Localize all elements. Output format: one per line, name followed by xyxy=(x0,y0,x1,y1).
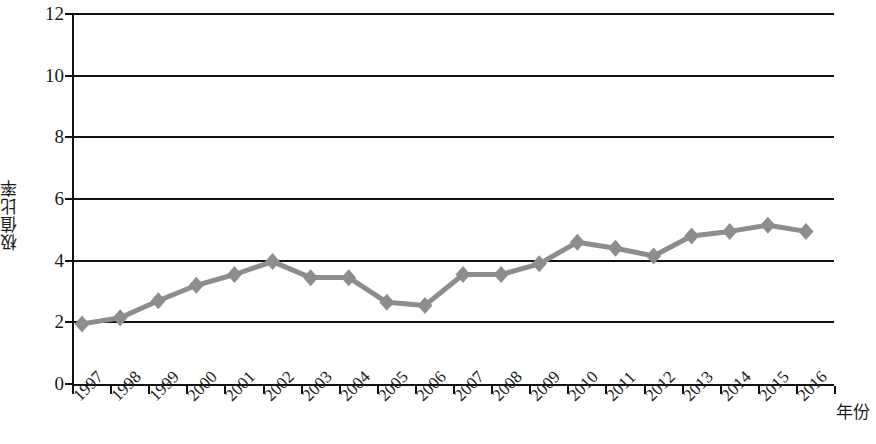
data-point-marker: 2013: 4.8 xyxy=(684,228,699,245)
y-axis-tick-label: 4 xyxy=(34,251,64,270)
data-point-marker: 2010: 4.6 xyxy=(570,234,585,251)
line-chart: 极值比率 121086420 1997: 1.951998: 2.151999:… xyxy=(0,0,876,444)
data-point-marker: 2009: 3.9 xyxy=(532,255,547,272)
y-axis-tick-label: 8 xyxy=(34,127,64,146)
y-axis-tick-label: 2 xyxy=(34,312,64,331)
data-series: 1997: 1.951998: 2.151999: 2.72000: 3.220… xyxy=(72,14,834,386)
data-point-marker: 2012: 4.15 xyxy=(646,248,661,265)
y-axis-tick-labels: 121086420 xyxy=(28,0,64,444)
y-axis-tick-label: 0 xyxy=(34,374,64,393)
series-line xyxy=(82,225,806,324)
data-point-marker: 2015: 5.15 xyxy=(760,217,775,234)
data-point-marker: 1997: 1.95 xyxy=(75,315,90,332)
y-axis-title: 极值比率 xyxy=(0,140,28,290)
x-axis-tick-labels: 1997199819992000200120022003200420052006… xyxy=(72,386,834,444)
data-point-marker: 2001: 3.55 xyxy=(227,266,242,283)
y-axis-tick-label: 10 xyxy=(34,66,64,85)
data-point-marker: 2002: 3.97 xyxy=(265,253,280,270)
data-point-marker: 2016: 4.95 xyxy=(798,223,813,240)
data-point-marker: 1999: 2.7 xyxy=(151,292,166,309)
y-axis-tick-label: 12 xyxy=(34,4,64,23)
data-point-marker: 2011: 4.4 xyxy=(608,240,623,257)
data-point-marker: 2003: 3.45 xyxy=(303,269,318,286)
x-axis-tick-mark xyxy=(834,386,836,394)
plot-area: 1997: 1.951998: 2.151999: 2.72000: 3.220… xyxy=(72,14,834,386)
data-point-marker: 2014: 4.95 xyxy=(722,223,737,240)
data-point-marker: 2008: 3.55 xyxy=(494,266,509,283)
data-point-marker: 1998: 2.15 xyxy=(113,309,128,326)
x-axis-title: 年份 xyxy=(836,404,870,422)
data-point-marker: 2000: 3.2 xyxy=(189,277,204,294)
y-axis-tick-label: 6 xyxy=(34,189,64,208)
